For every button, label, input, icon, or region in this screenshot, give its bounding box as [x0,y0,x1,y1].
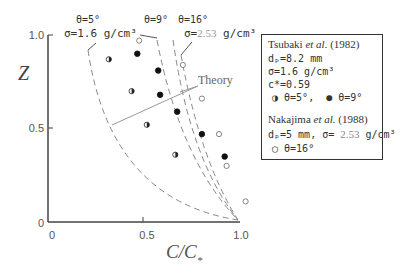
legend-nakajima-sigma: 2.53 [340,128,359,140]
filled-circle-point-1-4 [199,131,205,137]
legend-nakajima-marker: ○ θ=16° [272,143,314,154]
x-tick-label-0: 0 [49,229,55,241]
x-tick-label-05: 0.5 [139,229,154,241]
legend-nakajima-author: Nakajima [268,113,314,125]
y-axis-label: Z [18,62,30,84]
legend-nakajima-title: Nakajima et al. (1988) [268,113,368,125]
legend-nakajima-dp: dₚ=5 mm, σ= 2.53 g/cm³ [268,128,396,140]
y-tick-label-05: 0.5 [29,122,44,134]
legend-theta5: θ=5°, [284,92,314,103]
leader-theta16 [181,42,192,55]
legend-nakajima-year: (1988) [336,113,368,125]
open-circle-point-2-1 [180,62,185,67]
legend-tsubaki-markers: ◑ θ=5°, ● θ=9° [272,92,362,103]
theory-curves [88,40,238,220]
legend-tsubaki-author: Tsubaki [268,38,305,50]
open-circle-point-2-2 [199,96,204,101]
annotation-theta16: θ=16° [178,14,208,25]
filled-circle-point-1-5 [222,154,228,160]
half-filled-circle-point-0-1 [129,89,134,94]
y-tick-label-0: 0 [38,217,44,229]
filled-circle-point-1-3 [174,109,180,115]
y-tick-label-1: 1.0 [29,29,44,41]
legend-tsubaki-title: Tsubaki et al. (1982) [268,38,360,50]
x-axis-label: C/C* [166,241,203,266]
half-filled-circle-point-0-3 [173,152,178,157]
legend-tsubaki-sigma: σ=1.6 g/cm³ [268,66,334,77]
theory-arrow-2 [180,86,198,92]
legend-nakajima-unit: g/cm³ [360,129,396,140]
legend-tsubaki-cstar: c*=0.59 [268,79,310,90]
legend-nakajima-dp-text: dₚ=5 mm, σ= [268,129,340,140]
annotation-sigma16: σ=1.6 g/cm³ [64,27,137,40]
axes: 1.0 0.5 0 0 0.5 1.0 Z C/C* [18,29,249,266]
legend-tsubaki-year: (1982) [327,38,359,50]
filled-circle-point-1-1 [155,68,161,74]
legend: Tsubaki et al. (1982) dₚ=8.2 mm σ=1.6 g/… [261,34,383,160]
legend-nakajima-etal: et al. [314,113,336,125]
legend-tsubaki-etal: et al. [305,38,327,50]
filled-circle-point-1-0 [135,51,141,57]
open-circle-point-2-0 [137,38,142,43]
legend-theta16: θ=16° [284,143,314,154]
open-circle-icon: ○ [272,143,278,154]
legend-tsubaki-dp: dₚ=8.2 mm [268,53,322,64]
half-filled-circle-point-0-0 [106,57,111,62]
half-filled-circle-point-0-2 [144,122,149,127]
theory-curve-theta9 [157,40,238,220]
open-circle-point-2-3 [216,132,221,137]
leader-theta5 [88,43,96,50]
annotation-sigma253: σ=2.53 g/cm³ [184,27,256,40]
data-points [106,38,248,204]
x-tick-label-1: 1.0 [233,229,248,241]
open-circle-point-2-5 [243,199,248,204]
filled-circle-point-1-2 [157,92,163,98]
open-circle-point-2-4 [224,163,229,168]
legend-theta9: θ=9° [338,92,362,103]
filled-circle-icon: ● [326,92,332,103]
annotation-theory: Theory [198,73,233,87]
leader-theta9 [140,35,157,38]
theory-arrow-1 [112,86,198,125]
annotation-theta5: θ=5° [76,14,100,25]
annotation-theta9: θ=9° [144,14,168,25]
half-filled-circle-icon: ◑ [272,92,278,103]
